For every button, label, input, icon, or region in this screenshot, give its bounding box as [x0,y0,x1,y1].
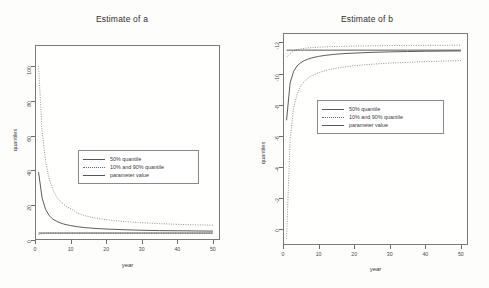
x-tick-mark [319,245,320,249]
x-tick-mark [106,240,107,244]
panel-b-title: Estimate of b [245,14,489,24]
legend-line-sample-dotted-icon [322,114,344,120]
x-tick-mark [354,245,355,249]
curves-b [283,33,468,245]
x-tick-mark [177,240,178,244]
x-tick-mark [142,240,143,244]
plot-area-a [35,45,220,240]
x-tick-label: 10 [63,246,79,252]
panel-estimate-of-b: Estimate of b -12-10-8-6-4-20 0102030405… [245,0,489,288]
x-tick-mark [283,245,284,249]
legend-item-label: parameter value [110,171,149,179]
y-tick-label: 0 [274,229,280,253]
legend-item: 50% quantile [83,155,193,163]
x-tick-label: 20 [98,246,114,252]
x-tick-label: 30 [382,251,398,257]
x-tick-label: 50 [205,246,221,252]
legend-line-sample-dotted-icon [83,164,105,170]
x-tick-mark [213,240,214,244]
legend-line-sample-solid-icon [83,156,105,162]
y-axis-label-b: quantiles [260,133,266,173]
x-tick-label: 40 [169,246,185,252]
legend-item: 10% and 90% quantile [322,113,438,121]
x-tick-mark [425,245,426,249]
legend-item: parameter value [83,171,193,179]
x-tick-mark [71,240,72,244]
legend-item-label: 50% quantile [110,155,141,163]
x-tick-label: 0 [27,246,43,252]
series-line [39,66,213,225]
panel-a-title: Estimate of a [0,14,244,24]
x-tick-label: 0 [275,251,291,257]
legend-a: 50% quantile10% and 90% quantileparamete… [78,150,199,184]
legend-b: 50% quantile10% and 90% quantileparamete… [317,100,444,134]
legend-line-sample-solid-icon [83,172,105,178]
legend-item-label: 10% and 90% quantile [349,113,403,121]
y-tick-label: -12 [274,42,280,66]
x-tick-label: 20 [346,251,362,257]
x-axis-label-a: year [35,262,220,268]
y-tick-label: 60 [26,136,32,160]
series-line [287,61,461,239]
y-axis-label-a: quantiles [12,120,18,160]
x-tick-label: 50 [453,251,469,257]
x-tick-mark [35,240,36,244]
legend-line-sample-solid-icon [322,122,344,128]
legend-item: 10% and 90% quantile [83,163,193,171]
x-tick-mark [461,245,462,249]
y-tick-label: -2 [274,198,280,222]
y-tick-label: -6 [274,136,280,160]
y-tick-label: 0 [26,240,32,264]
legend-line-sample-solid-icon [322,106,344,112]
y-tick-label: 80 [26,101,32,125]
x-axis-label-b: year [283,266,468,272]
curves-a [35,45,220,240]
x-tick-label: 10 [311,251,327,257]
legend-item: parameter value [322,121,438,129]
y-tick-label: 40 [26,170,32,194]
y-tick-label: 20 [26,205,32,229]
x-tick-label: 30 [134,246,150,252]
y-tick-label: 100 [26,66,32,90]
legend-item: 50% quantile [322,105,438,113]
y-tick-label: -10 [274,74,280,98]
legend-item-label: 50% quantile [349,105,380,113]
panel-estimate-of-a: Estimate of a 020406080100 01020304050 q… [0,0,244,288]
y-tick-label: -4 [274,167,280,191]
y-tick-label: -8 [274,105,280,129]
x-tick-label: 40 [417,251,433,257]
x-tick-mark [390,245,391,249]
legend-item-label: 10% and 90% quantile [110,163,164,171]
plot-area-b [283,33,468,245]
legend-item-label: parameter value [349,121,388,129]
